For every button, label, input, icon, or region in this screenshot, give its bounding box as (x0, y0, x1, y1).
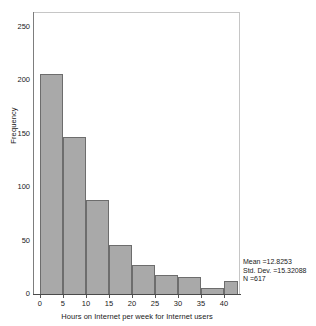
x-tick-label-25: 25 (143, 299, 167, 308)
x-tick-label-5: 5 (51, 299, 75, 308)
y-tick-label-150: 150 (8, 130, 30, 138)
x-tick-label-35: 35 (189, 299, 213, 308)
histogram-bars (33, 12, 240, 295)
histogram-figure: Frequency 250 200 150 100 50 0 0 5 (0, 0, 316, 326)
bar-10-15 (86, 200, 109, 295)
y-axis-ticks: 250 200 150 100 50 0 (8, 0, 30, 326)
bar-0-5 (40, 74, 63, 295)
x-tick-label-10: 10 (74, 299, 98, 308)
stats-mean: Mean =12.8253 (243, 258, 307, 267)
bar-5-10 (63, 137, 86, 295)
x-tick-label-40: 40 (212, 299, 236, 308)
stats-annotation: Mean =12.8253 Std. Dev. =15.32088 N =617 (243, 258, 307, 284)
stats-std-dev: Std. Dev. =15.32088 (243, 267, 307, 276)
y-axis-line (33, 12, 34, 295)
bar-40-43 (224, 281, 238, 295)
x-tick-label-20: 20 (120, 299, 144, 308)
stats-n: N =617 (243, 275, 307, 284)
x-axis-line (33, 294, 241, 295)
x-tick-label-15: 15 (97, 299, 121, 308)
x-axis-ticks: 0 5 10 15 20 25 30 35 40 (33, 294, 241, 314)
y-tick-label-100: 100 (8, 183, 30, 191)
y-tick-label-250: 250 (8, 23, 30, 31)
x-axis-title: Hours on Internet per week for Internet … (33, 312, 241, 321)
y-tick-label-200: 200 (8, 76, 30, 84)
x-tick-label-30: 30 (166, 299, 190, 308)
bar-20-25 (132, 265, 155, 295)
bar-30-35 (178, 277, 201, 295)
bar-15-20 (109, 245, 132, 295)
bar-25-30 (155, 275, 178, 295)
y-tick-label-50: 50 (8, 237, 30, 245)
y-tick-label-0: 0 (8, 290, 30, 298)
x-tick-label-0: 0 (28, 299, 52, 308)
